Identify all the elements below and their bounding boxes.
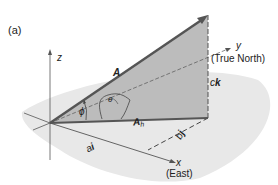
phi-label: ϕ	[79, 107, 85, 117]
x-axis-note: (East)	[166, 169, 193, 179]
ck-vec: k	[215, 77, 221, 88]
y-axis-note: (True North)	[211, 54, 265, 64]
vector-Ah-label: Ah	[133, 117, 145, 129]
vector-diagram	[0, 0, 278, 185]
z-arrow-icon	[48, 49, 52, 55]
x-axis-label: x	[176, 158, 181, 168]
z-axis-label: z	[57, 53, 62, 63]
y-arrow-icon	[225, 48, 231, 52]
theta-label: θ	[108, 96, 112, 104]
ah-sub: h	[140, 121, 145, 128]
y-axis-label: y	[236, 41, 241, 51]
ck-label: ck	[210, 78, 221, 88]
vector-A-label: A	[113, 68, 120, 78]
panel-label: (a)	[8, 25, 21, 36]
